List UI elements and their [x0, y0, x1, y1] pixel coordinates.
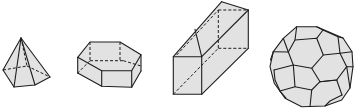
- square-prism: [173, 2, 248, 95]
- solids-figure: [0, 0, 363, 111]
- solids-drawing: [0, 0, 363, 111]
- pentagonal-pyramid: [3, 38, 50, 87]
- hexagonal-prism: [78, 42, 141, 87]
- truncated-icosahedron: [270, 27, 353, 107]
